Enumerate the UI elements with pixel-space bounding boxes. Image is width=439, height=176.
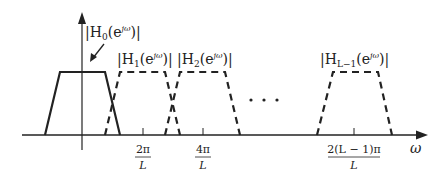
hl1-label: |HL−1(ejω)| — [320, 51, 389, 69]
x-axis-arrow-icon — [416, 131, 428, 140]
h2-label: |H2(ejω)| — [177, 51, 233, 69]
h0-label: |H0(ejω)| — [85, 24, 141, 42]
h1-label: |H1(ejω)| — [117, 51, 173, 69]
svg-text:4π: 4π — [196, 143, 210, 156]
svg-text:L: L — [349, 159, 357, 172]
x-axis-label: ω — [410, 140, 422, 156]
svg-text:L: L — [138, 159, 146, 172]
svg-text:2(L − 1)π: 2(L − 1)π — [327, 143, 380, 156]
svg-text:2π: 2π — [136, 143, 150, 156]
tick-label-2l1pi: 2(L − 1)π L — [327, 143, 380, 172]
svg-text:L: L — [198, 159, 206, 172]
y-axis-arrow-icon — [78, 12, 86, 24]
ellipsis — [249, 98, 278, 101]
filter-bank-diagram: |H0(ejω)| |H1(ejω)| |H2(ejω)| |HL−1(ejω)… — [0, 0, 439, 176]
h1-response — [105, 72, 180, 135]
tick-label-4pi: 4π L — [195, 143, 211, 172]
tick-label-2pi: 2π L — [135, 143, 151, 172]
hl1-response — [317, 72, 392, 135]
h2-response — [165, 72, 240, 135]
